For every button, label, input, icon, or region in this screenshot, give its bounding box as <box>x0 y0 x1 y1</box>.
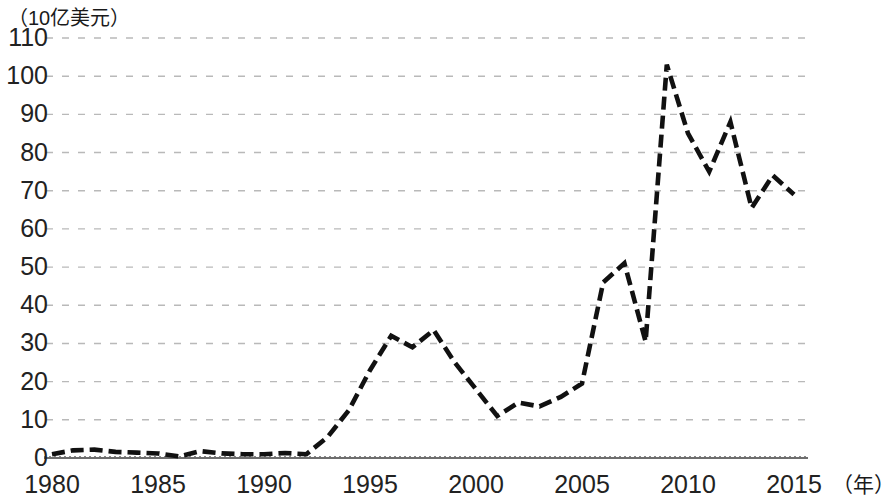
x-axis-tick-label: 2000 <box>448 472 504 497</box>
y-axis-tick-label: 60 <box>4 216 48 241</box>
y-axis-tick-label: 40 <box>4 292 48 317</box>
x-axis-tick-label: 1985 <box>130 472 186 497</box>
y-axis-tick-label: 90 <box>4 101 48 126</box>
y-axis-tick-label: 110 <box>4 25 48 50</box>
x-axis-unit-label: （年） <box>832 472 886 497</box>
y-axis-tick-label: 100 <box>4 63 48 88</box>
y-axis-tick-label: 80 <box>4 140 48 165</box>
y-axis-tick-label: 50 <box>4 254 48 279</box>
axis-lines-group <box>44 457 808 459</box>
y-axis-tick-label: 0 <box>4 445 48 470</box>
y-axis-tick-label: 20 <box>4 369 48 394</box>
x-axis-tick-label: 2015 <box>766 472 822 497</box>
x-axis-tick-label: 1980 <box>24 472 80 497</box>
data-series-group <box>52 65 794 457</box>
x-axis-tick-label: 2010 <box>660 472 716 497</box>
y-axis-tick-label: 10 <box>4 407 48 432</box>
x-axis-tick-label: 1995 <box>342 472 398 497</box>
x-axis-tick-label: 1990 <box>236 472 292 497</box>
x-axis-tick-label: 2005 <box>554 472 610 497</box>
gridlines-group <box>46 38 808 420</box>
y-axis-tick-label: 70 <box>4 178 48 203</box>
data-line <box>52 65 794 457</box>
y-axis-tick-label: 30 <box>4 330 48 355</box>
